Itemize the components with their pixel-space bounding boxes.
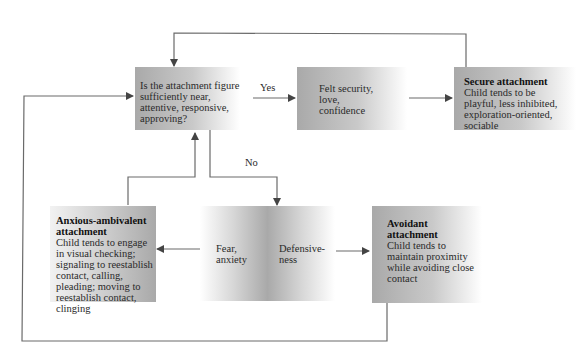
question-text: Is the attachment figure sufficiently ne… <box>140 80 239 124</box>
defensiveness-text: Defensive- ness <box>279 243 325 265</box>
no-label: No <box>245 157 258 168</box>
secure-text: Child tends to be playful, less inhibite… <box>464 87 564 131</box>
defensiveness-line: Defensive- <box>279 243 325 254</box>
secure-title: Secure attachment <box>464 76 572 87</box>
anxious-title: Anxious-ambivalent attachment <box>56 215 154 237</box>
question-box: Is the attachment figure sufficiently ne… <box>135 67 240 130</box>
felt-security-line: Felt security, <box>319 83 407 94</box>
anxious-text: Child tends to engage in visual checking… <box>56 237 154 314</box>
avoidant-box: Avoidant attachment Child tends to maint… <box>372 206 482 303</box>
avoidant-title: Avoidant attachment <box>387 218 457 240</box>
avoidant-text: Child tends to maintain proximity while … <box>387 240 477 284</box>
defensiveness-line: ness <box>279 254 325 265</box>
fear-line: anxiety <box>216 254 247 265</box>
felt-security-line: love, <box>319 94 407 105</box>
fear-text: Fear, anxiety <box>216 243 247 265</box>
yes-label: Yes <box>260 82 275 93</box>
fear-line: Fear, <box>216 243 247 254</box>
fear-defensiveness-box: Fear, anxiety Defensive- ness <box>200 206 335 301</box>
anxious-ambivalent-box: Anxious-ambivalent attachment Child tend… <box>50 206 156 302</box>
secure-attachment-box: Secure attachment Child tends to be play… <box>454 67 576 130</box>
felt-security-line: confidence <box>319 105 407 116</box>
felt-security-box: Felt security, love, confidence <box>297 67 407 130</box>
